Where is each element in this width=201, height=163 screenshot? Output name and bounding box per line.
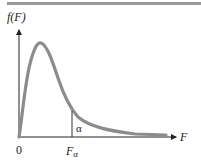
critical-value-label: Fα (65, 144, 78, 159)
origin-tick-label: 0 (16, 143, 22, 157)
density-curve (19, 43, 166, 137)
tail-area-label: α (76, 122, 82, 134)
f-distribution-chart: f(F) F 0 Fα α (0, 0, 201, 163)
x-axis-label: F (179, 130, 188, 144)
y-axis-label: f(F) (7, 10, 26, 24)
